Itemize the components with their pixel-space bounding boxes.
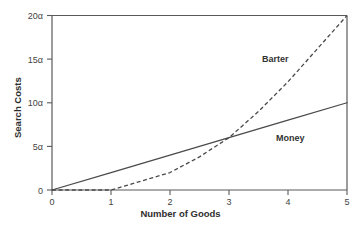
x-tick-label-4: 4 (278, 197, 298, 207)
chart-figure: 20α 15α 10α 5α 0 0 1 2 3 4 5 Search Cost… (0, 0, 361, 231)
y-tick-label-5a: 5α (12, 142, 43, 152)
y-tick-label-0: 0 (12, 186, 43, 196)
series-line-money (52, 103, 347, 190)
x-tick-marks (52, 190, 347, 195)
y-tick-label-15a: 15α (12, 55, 43, 65)
series-annotation-barter: Barter (262, 54, 289, 64)
y-tick-label-20a: 20α (12, 11, 43, 21)
x-tick-label-1: 1 (101, 197, 121, 207)
x-tick-label-0: 0 (42, 197, 62, 207)
series-annotation-money: Money (276, 133, 305, 143)
x-tick-label-3: 3 (219, 197, 239, 207)
x-axis-title: Number of Goods (0, 208, 361, 219)
y-axis-title: Search Costs (12, 77, 23, 138)
series-line-barter (52, 16, 347, 191)
x-tick-label-2: 2 (160, 197, 180, 207)
y-tick-marks (47, 16, 52, 191)
x-tick-label-5: 5 (337, 197, 357, 207)
